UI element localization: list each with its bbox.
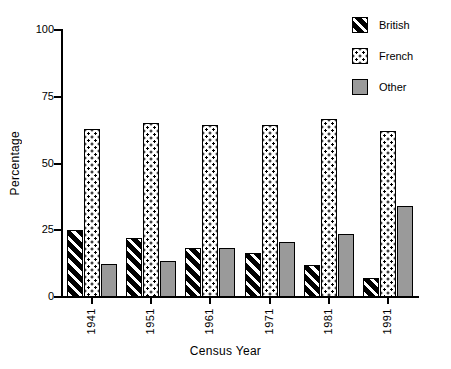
y-tick-label-wrap: 50: [0, 158, 54, 169]
x-tick-label: 1961: [204, 308, 215, 334]
bar-chart: Percentage 0255075100 194119511961197119…: [0, 0, 451, 369]
x-tick-mark: [328, 297, 330, 304]
y-tick-label-wrap: 25: [0, 224, 54, 235]
bar-french-1961: [202, 125, 218, 297]
legend-item-british[interactable]: British: [352, 16, 448, 34]
x-tick-mark: [387, 297, 389, 304]
x-tick-label: 1991: [382, 308, 393, 334]
y-tick-label: 25: [24, 224, 54, 235]
bar-other-1971: [279, 242, 295, 297]
legend-item-other[interactable]: Other: [352, 78, 448, 96]
bar-british-1951: [126, 238, 142, 297]
y-tick-label-wrap: 0: [0, 291, 54, 302]
x-tick-label: 1981: [323, 308, 334, 334]
bar-french-1951: [143, 123, 159, 297]
x-tick-mark: [150, 297, 152, 304]
x-tick-mark: [209, 297, 211, 304]
bar-french-1971: [262, 125, 278, 297]
x-axis-title: Census Year: [0, 344, 451, 358]
legend-label: French: [379, 51, 413, 62]
bar-british-1991: [363, 278, 379, 297]
chart-legend: BritishFrenchOther: [352, 16, 448, 109]
y-tick-label: 0: [24, 291, 54, 302]
legend-swatch-french-icon: [352, 48, 368, 64]
bar-british-1971: [245, 253, 261, 297]
y-tick-label: 50: [24, 158, 54, 169]
bar-other-1961: [219, 248, 235, 297]
bar-british-1961: [185, 248, 201, 297]
x-tick-mark: [269, 297, 271, 304]
y-tick-label: 75: [24, 91, 54, 102]
y-tick-mark: [54, 229, 62, 231]
y-tick-mark: [54, 96, 62, 98]
bar-british-1941: [67, 230, 83, 297]
bar-other-1941: [101, 264, 117, 297]
x-tick-mark: [91, 297, 93, 304]
y-tick-label-wrap: 75: [0, 91, 54, 102]
bar-french-1981: [321, 119, 337, 297]
bar-french-1991: [380, 131, 396, 297]
y-tick-mark: [54, 29, 62, 31]
legend-item-french[interactable]: French: [352, 47, 448, 65]
legend-swatch-other-icon: [352, 79, 368, 95]
bar-french-1941: [84, 129, 100, 297]
legend-label: Other: [379, 82, 407, 93]
bar-british-1981: [304, 265, 320, 297]
bar-other-1951: [160, 261, 176, 297]
bar-other-1991: [397, 206, 413, 297]
bar-other-1981: [338, 234, 354, 297]
x-tick-label: 1951: [145, 308, 156, 334]
y-tick-mark: [54, 296, 62, 298]
y-tick-label-wrap: 100: [0, 24, 54, 35]
legend-label: British: [379, 20, 410, 31]
legend-swatch-british-icon: [352, 17, 368, 33]
x-tick-label: 1941: [86, 308, 97, 334]
x-tick-label: 1971: [264, 308, 275, 334]
y-tick-label: 100: [24, 24, 54, 35]
y-tick-mark: [54, 163, 62, 165]
